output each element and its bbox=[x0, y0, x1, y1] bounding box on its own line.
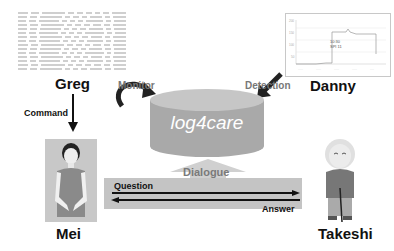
log-cell bbox=[76, 44, 82, 46]
log-cell bbox=[78, 20, 83, 22]
log-cell bbox=[84, 24, 90, 26]
dialogue-label: Dialogue bbox=[183, 166, 229, 178]
log-cell bbox=[18, 68, 27, 70]
svg-text:50: 50 bbox=[291, 55, 295, 59]
log-cell bbox=[73, 68, 78, 70]
log-cell bbox=[93, 44, 101, 46]
elderly-man-avatar-icon bbox=[310, 138, 370, 223]
log-cell bbox=[95, 12, 101, 14]
greg-label: Greg bbox=[55, 75, 90, 92]
log-cell bbox=[29, 52, 36, 54]
log-row bbox=[18, 16, 126, 19]
log-cell bbox=[82, 36, 87, 38]
log-cell bbox=[30, 48, 37, 50]
log-cell bbox=[113, 36, 126, 38]
monitoring-chart: 200 150 100 50 ························ … bbox=[285, 13, 391, 77]
log-cell bbox=[106, 20, 111, 22]
log-cell bbox=[18, 44, 28, 46]
log-cell bbox=[68, 12, 74, 14]
log-cell bbox=[18, 24, 27, 26]
svg-text:100: 100 bbox=[289, 43, 294, 47]
log-cell bbox=[75, 24, 81, 26]
log-cell bbox=[18, 56, 27, 58]
question-answer-arrows-icon bbox=[110, 190, 302, 204]
log-cell bbox=[106, 28, 111, 30]
log-cell bbox=[113, 44, 126, 46]
log-cell bbox=[18, 64, 28, 66]
log-cell bbox=[70, 52, 75, 54]
log-cell bbox=[62, 52, 67, 54]
log-cell bbox=[83, 56, 89, 58]
log-cell bbox=[67, 44, 73, 46]
log-cell bbox=[105, 48, 110, 50]
log-cell bbox=[91, 36, 102, 38]
log-cell bbox=[114, 40, 126, 42]
log-row bbox=[18, 12, 126, 15]
log-row bbox=[18, 24, 126, 27]
log-row bbox=[18, 28, 126, 31]
log-row bbox=[18, 32, 126, 35]
log-cell bbox=[63, 60, 68, 62]
log-cell bbox=[74, 36, 79, 38]
command-label: Command bbox=[24, 108, 68, 118]
log-cell bbox=[31, 12, 39, 14]
log-cell bbox=[29, 32, 36, 34]
log-cell bbox=[79, 40, 84, 42]
log-cell bbox=[18, 20, 26, 22]
log-cell bbox=[115, 32, 126, 34]
svg-text:····: ···· bbox=[370, 68, 374, 72]
log-cell bbox=[64, 48, 69, 50]
log-cell bbox=[105, 56, 111, 58]
log-cell bbox=[113, 56, 126, 58]
log-cell bbox=[40, 48, 61, 50]
log-cell bbox=[104, 44, 110, 46]
log-cell bbox=[86, 20, 103, 22]
command-down-arrow-icon bbox=[66, 94, 80, 134]
log-cell bbox=[18, 48, 27, 50]
log-cell bbox=[107, 32, 112, 34]
log-cell bbox=[81, 48, 86, 50]
takeshi-avatar bbox=[310, 138, 370, 223]
log-cell bbox=[85, 32, 104, 34]
log-cell bbox=[30, 24, 38, 26]
log-cell bbox=[41, 64, 64, 66]
log-cell bbox=[85, 52, 103, 54]
log-cell bbox=[29, 20, 36, 22]
log-cell bbox=[113, 16, 126, 18]
log-cell bbox=[82, 16, 87, 18]
log-cell bbox=[103, 12, 109, 14]
log-cell bbox=[30, 36, 37, 38]
log-cell bbox=[73, 16, 78, 18]
svg-text:·····: ····· bbox=[316, 68, 321, 72]
log-cell bbox=[41, 24, 64, 26]
mei-avatar bbox=[45, 139, 97, 222]
log-cell bbox=[40, 68, 61, 70]
log-cell bbox=[64, 28, 69, 30]
log-cell bbox=[30, 68, 37, 70]
log-cell bbox=[104, 24, 110, 26]
log-row bbox=[18, 44, 126, 47]
log-cell bbox=[39, 52, 59, 54]
log-cell bbox=[87, 40, 103, 42]
log-cell bbox=[65, 16, 70, 18]
log-cell bbox=[18, 28, 27, 30]
log-cell bbox=[61, 32, 66, 34]
svg-text:150: 150 bbox=[289, 31, 294, 35]
log-cell bbox=[65, 68, 70, 70]
log-cell bbox=[72, 48, 77, 50]
log-cell bbox=[114, 48, 126, 50]
log-row bbox=[18, 56, 126, 59]
log-cell bbox=[77, 52, 82, 54]
log-cell bbox=[40, 16, 62, 18]
log-cell bbox=[67, 24, 73, 26]
log-cell bbox=[113, 64, 127, 66]
log-cell bbox=[104, 64, 110, 66]
log-cell bbox=[114, 60, 126, 62]
log-cell bbox=[72, 28, 77, 30]
log-cell bbox=[31, 44, 39, 46]
log-cell bbox=[29, 40, 36, 42]
log-cell bbox=[39, 32, 59, 34]
log-cell bbox=[85, 64, 91, 66]
takeshi-label: Takeshi bbox=[318, 225, 373, 242]
log-cell bbox=[30, 60, 37, 62]
